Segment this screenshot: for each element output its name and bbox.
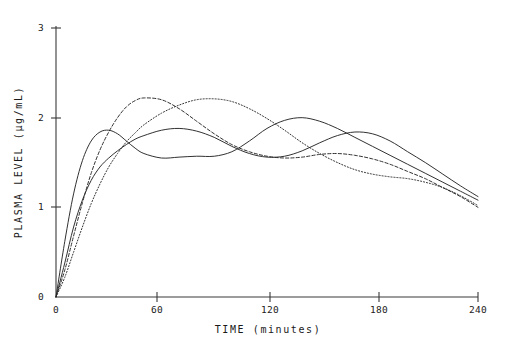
data-curve-3 — [56, 98, 478, 297]
x-tick-label-60: 60 — [151, 304, 163, 315]
curve-layer — [56, 98, 478, 297]
y-tick-label-1: 1 — [38, 201, 44, 212]
x-axis-title: TIME (minutes) — [215, 324, 322, 335]
x-tick-label-120: 120 — [261, 304, 279, 315]
y-tick-label-0: 0 — [38, 291, 44, 302]
x-tick-label-180: 180 — [370, 304, 388, 315]
y-axis-title: PLASMA LEVEL (µg/mL) — [13, 86, 24, 238]
data-curve-2 — [56, 128, 478, 297]
x-tick-label-240: 240 — [469, 304, 487, 315]
chart-svg: 3 2 1 0 0 60 120 180 240 PLASMA LEVEL (µ… — [0, 0, 505, 348]
plasma-level-chart: 3 2 1 0 0 60 120 180 240 PLASMA LEVEL (µ… — [0, 0, 505, 348]
y-tick-label-3: 3 — [38, 22, 44, 33]
data-curve-1 — [56, 118, 478, 297]
x-tick-label-0: 0 — [53, 304, 59, 315]
y-tick-label-2: 2 — [38, 112, 44, 123]
